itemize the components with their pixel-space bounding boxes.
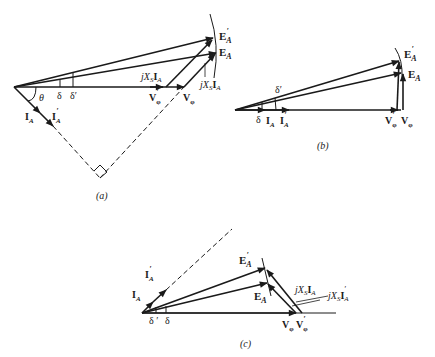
label-delta-a: δ bbox=[57, 90, 62, 101]
label-jxs-ia-prime-c: jXSIA′ bbox=[326, 285, 349, 303]
caption-c: (c) bbox=[240, 338, 252, 350]
label-v-phi-prime-a: Vφ′ bbox=[149, 88, 161, 106]
ea-prime-vector-a bbox=[14, 38, 213, 87]
label-jxs-ia-lower-a: jXSIA bbox=[198, 79, 221, 92]
label-delta-prime-a: δ′ bbox=[70, 90, 77, 101]
ea-vector-a bbox=[14, 53, 216, 87]
ea-prime-vector-c bbox=[142, 268, 265, 313]
label-ea-prime-a: EA′ bbox=[219, 27, 232, 45]
label-ea-prime-c: EA′ bbox=[239, 251, 252, 269]
label-delta-prime-c: δ ′ bbox=[149, 315, 158, 326]
label-v-phi-c: Vφ bbox=[282, 319, 294, 333]
label-delta-prime-b: δ′ bbox=[275, 84, 282, 95]
label-jxs-ia-c: jXSIA bbox=[293, 284, 316, 297]
ia-prime-vector-c bbox=[153, 290, 166, 302]
panel-a-labels: EA′ EA jXSIA jXSIA θ δ δ′ Vφ′ Vφ IA IA′ … bbox=[25, 27, 232, 202]
ia-dashed-extension-a bbox=[53, 126, 100, 178]
ea-prime-vector-b bbox=[235, 61, 399, 110]
ea-locus-arc-a bbox=[210, 14, 216, 78]
label-ia-prime-b: IA′ bbox=[280, 111, 289, 129]
label-ea-a: EA bbox=[219, 46, 232, 61]
ea-locus-c bbox=[262, 258, 271, 296]
ea-vector-c bbox=[142, 283, 267, 313]
label-ea-prime-b: EA′ bbox=[404, 45, 417, 63]
caption-a: (a) bbox=[96, 190, 108, 202]
theta-arc-a bbox=[28, 87, 36, 101]
label-ia-a: IA bbox=[25, 111, 34, 125]
label-jxs-ia-upper-a: jXSIA bbox=[139, 71, 162, 84]
panel-b bbox=[235, 48, 403, 110]
phasor-diagram-figure: EA′ EA jXSIA jXSIA θ δ δ′ Vφ′ Vφ IA IA′ … bbox=[0, 0, 435, 357]
caption-b: (b) bbox=[317, 140, 329, 152]
label-delta-b: δ bbox=[256, 114, 261, 125]
label-v-phi-prime-c: Vφ′ bbox=[296, 315, 308, 333]
ea-vector-b bbox=[235, 73, 401, 110]
label-v-phi-a: Vφ bbox=[183, 92, 195, 106]
label-v-phi-prime-b: Vφ′ bbox=[385, 111, 397, 129]
right-angle-symbol-a bbox=[94, 165, 107, 178]
label-v-phi-b: Vφ bbox=[401, 115, 413, 129]
label-ia-b: IA bbox=[266, 115, 275, 129]
label-ia-prime-c: IA′ bbox=[145, 265, 154, 283]
label-theta-a: θ bbox=[39, 92, 44, 103]
label-ia-c: IA bbox=[132, 289, 141, 303]
panel-c bbox=[142, 229, 336, 313]
jxs-ia-prime-vector-b bbox=[397, 62, 399, 110]
jxs-dashed-extension-a bbox=[100, 87, 184, 178]
delta-prime-arc-b bbox=[275, 98, 276, 110]
label-ia-prime-a: IA′ bbox=[52, 107, 61, 125]
label-ea-b: EA bbox=[408, 68, 421, 83]
label-delta-c: δ bbox=[165, 315, 170, 326]
jxs-prime-leader-c bbox=[292, 300, 320, 306]
ia-dashed-extension-c bbox=[166, 229, 232, 290]
label-ea-c: EA bbox=[254, 290, 267, 305]
